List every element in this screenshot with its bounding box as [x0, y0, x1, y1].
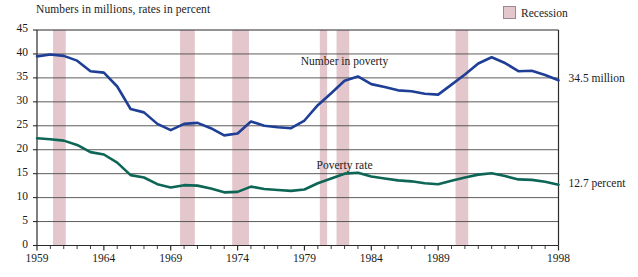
y-tick-label: 40 [4, 46, 28, 58]
y-tick-label: 15 [4, 166, 28, 178]
series-line [37, 54, 559, 135]
recession-band [456, 30, 469, 246]
y-tick-label: 0 [4, 238, 28, 250]
y-tick-label: 35 [4, 70, 28, 82]
series-name-label: Poverty rate [317, 159, 373, 171]
recession-band [180, 30, 195, 246]
y-tick-label: 5 [4, 214, 28, 226]
x-tick-label: 1969 [151, 252, 191, 264]
x-tick-label: 1989 [418, 252, 458, 264]
series-end-value-label: 34.5 million [569, 72, 625, 84]
x-tick-label: 1959 [17, 252, 57, 264]
series-end-value-label: 12.7 percent [569, 177, 626, 189]
y-tick-label: 30 [4, 94, 28, 106]
y-tick-label: 20 [4, 142, 28, 154]
series-line [37, 138, 559, 192]
y-tick-label: 45 [4, 22, 28, 34]
x-tick-label: 1998 [539, 252, 579, 264]
poverty-chart-figure: Numbers in millions, rates in percent Re… [0, 0, 638, 277]
y-tick-label: 25 [4, 118, 28, 130]
x-tick-label: 1984 [351, 252, 391, 264]
recession-band [53, 30, 66, 246]
y-tick-label: 10 [4, 190, 28, 202]
x-tick-label: 1964 [84, 252, 124, 264]
recession-band [232, 30, 249, 246]
chart-plot-area [0, 0, 638, 277]
series-name-label: Number in poverty [301, 55, 389, 67]
x-tick-label: 1974 [218, 252, 258, 264]
x-tick-label: 1979 [284, 252, 324, 264]
